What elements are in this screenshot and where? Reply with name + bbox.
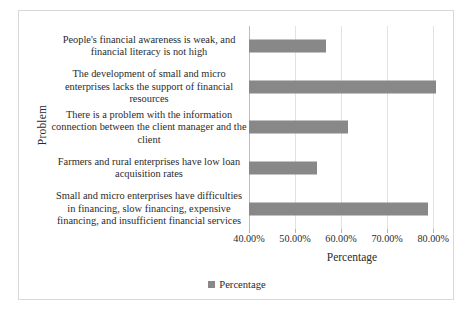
bar-row <box>249 26 447 67</box>
x-tick-label: 40.00% <box>226 233 272 244</box>
legend-swatch-percentage <box>208 281 215 288</box>
category-label: People's financial awareness is weak, an… <box>51 34 247 59</box>
bar-row <box>249 188 447 229</box>
x-axis-title: Percentage <box>277 251 427 263</box>
chart-legend: Percentage <box>19 279 455 290</box>
bar-percentage[interactable] <box>249 202 428 215</box>
bar-percentage[interactable] <box>249 162 317 175</box>
x-tick-label: 60.00% <box>318 233 364 244</box>
category-label: Small and micro enterprises have difficu… <box>51 190 247 227</box>
category-label: Farmers and rural enterprises have low l… <box>51 156 247 181</box>
bar-row <box>249 148 447 189</box>
legend-label-percentage: Percentage <box>219 279 265 290</box>
bar-row <box>249 67 447 108</box>
x-tick-label: 70.00% <box>364 233 410 244</box>
bar-row <box>249 107 447 148</box>
x-axis-tick-labels: 40.00%50.00%60.00%70.00%80.00% <box>249 233 459 247</box>
y-axis-title: Problem <box>36 80 48 170</box>
chart-container: Problem 40.00%50.00%60.00%70.00%80.00% P… <box>18 10 454 300</box>
bar-percentage[interactable] <box>249 121 348 134</box>
x-tick-label: 80.00% <box>410 233 456 244</box>
bar-percentage[interactable] <box>249 40 326 53</box>
plot-area <box>249 26 447 229</box>
x-tick-label: 50.00% <box>272 233 318 244</box>
bar-percentage[interactable] <box>249 80 436 93</box>
category-label: There is a problem with the information … <box>51 109 247 146</box>
category-label: The development of small and micro enter… <box>51 68 247 105</box>
